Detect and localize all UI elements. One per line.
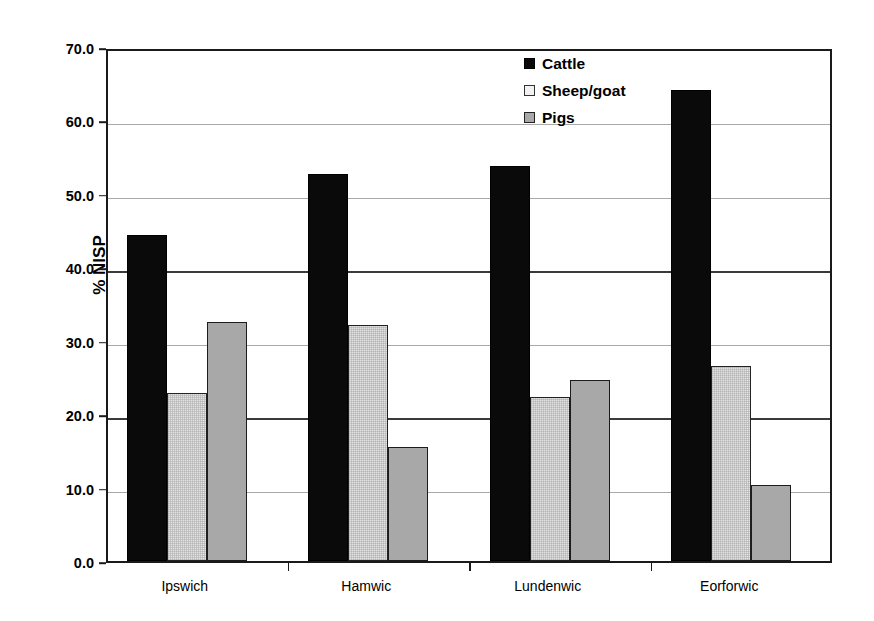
y-axis-tick-mark [99, 195, 106, 197]
y-axis-tick-mark [99, 48, 106, 50]
bar-chart: % NISP 70.060.050.040.030.020.010.00.0 I… [0, 0, 874, 621]
bar-pigs-hamwic [388, 447, 428, 561]
bar-cattle-eorforwic [671, 90, 711, 561]
y-axis-tick-label: 20.0 [32, 408, 94, 424]
bar-sheepgoat-eorforwic [711, 366, 751, 561]
legend-swatch-cattle-icon [524, 58, 535, 69]
bar-cattle-ipswich [127, 235, 167, 561]
bar-cattle-lundenwic [490, 166, 530, 561]
legend-swatch-pigs-icon [524, 112, 535, 123]
x-axis-category-label: Ipswich [161, 578, 208, 594]
legend-label: Cattle [542, 55, 585, 73]
bar-cattle-hamwic [308, 174, 348, 561]
x-axis-tick-mark [469, 563, 471, 571]
legend-swatch-sheepgoat-icon [524, 85, 535, 96]
y-axis-tick-label: 40.0 [32, 261, 94, 277]
bar-sheepgoat-hamwic [348, 325, 388, 561]
bars-layer [108, 51, 830, 561]
x-axis-category-label: Hamwic [341, 578, 391, 594]
y-axis-tick-mark [99, 562, 106, 564]
plot-area [106, 49, 832, 563]
x-axis-tick-mark [288, 563, 290, 571]
y-axis-tick-mark [99, 489, 106, 491]
bar-sheepgoat-ipswich [167, 393, 207, 561]
legend-item-pigs: Pigs [524, 106, 684, 129]
y-axis-tick-label: 70.0 [32, 41, 94, 57]
x-axis-category-label: Eorforwic [700, 578, 758, 594]
y-axis-tick-label: 10.0 [32, 482, 94, 498]
y-axis-tick-mark [99, 342, 106, 344]
y-axis-tick-label: 30.0 [32, 335, 94, 351]
legend-item-sheepgoat: Sheep/goat [524, 79, 684, 102]
y-axis-tick-mark [99, 268, 106, 270]
x-axis-tick-mark [651, 563, 653, 571]
legend-label: Sheep/goat [542, 82, 626, 100]
legend-item-cattle: Cattle [524, 52, 684, 75]
bar-pigs-lundenwic [570, 380, 610, 561]
bar-sheepgoat-lundenwic [530, 397, 570, 561]
y-axis-tick-mark [99, 415, 106, 417]
x-axis-category-label: Lundenwic [514, 578, 581, 594]
legend-label: Pigs [542, 109, 575, 127]
y-axis-tick-label: 0.0 [32, 555, 94, 571]
y-axis-tick-label: 50.0 [32, 188, 94, 204]
bar-pigs-eorforwic [751, 485, 791, 561]
bar-pigs-ipswich [207, 322, 247, 561]
y-axis-tick-label: 60.0 [32, 114, 94, 130]
chart-legend: CattleSheep/goatPigs [524, 52, 684, 133]
y-axis-tick-mark [99, 122, 106, 124]
